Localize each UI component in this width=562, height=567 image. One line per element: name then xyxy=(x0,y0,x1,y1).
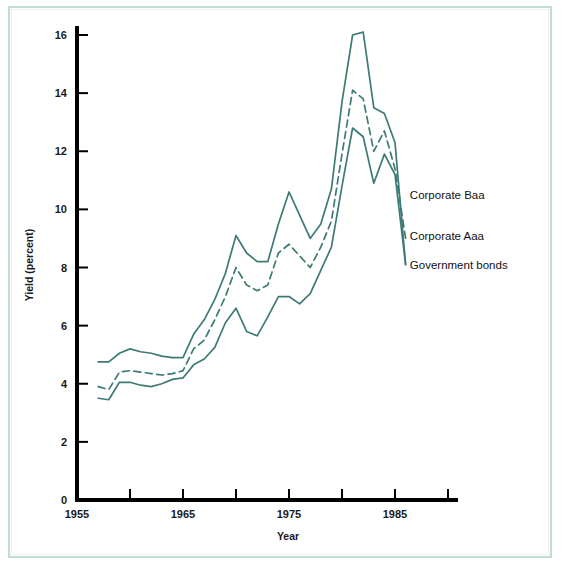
y-axis-tick-label: 4 xyxy=(61,378,68,390)
x-axis-tick-label: 1965 xyxy=(171,508,195,520)
y-axis-tick-label: 10 xyxy=(55,203,67,215)
x-axis-title: Year xyxy=(277,530,299,542)
x-axis-tick-labels: 1955196519751985 xyxy=(65,508,407,520)
y-axis-tick-label: 0 xyxy=(61,494,67,506)
series-label-government-bonds: Government bonds xyxy=(410,259,508,271)
series-line-corporate-aaa xyxy=(98,90,405,389)
x-axis-tick-label: 1985 xyxy=(383,508,407,520)
y-axis-tick-labels: 0246810121416 xyxy=(55,29,68,506)
x-axis-tick-label: 1955 xyxy=(65,508,89,520)
bond-yield-line-chart: 0246810121416 1955196519751985 Corporate… xyxy=(0,0,562,567)
y-axis-tick-label: 14 xyxy=(55,87,68,99)
series-end-labels: Corporate BaaCorporate AaaGovernment bon… xyxy=(410,189,508,271)
series-label-corporate-aaa: Corporate Aaa xyxy=(410,230,485,242)
data-series-lines xyxy=(98,32,405,400)
series-label-corporate-baa: Corporate Baa xyxy=(410,189,485,201)
series-line-corporate-baa xyxy=(98,32,405,362)
y-axis-tick-label: 12 xyxy=(55,145,67,157)
chart-figure: 0246810121416 1955196519751985 Corporate… xyxy=(0,0,562,567)
y-axis-tick-label: 16 xyxy=(55,29,67,41)
x-axis-tick-label: 1975 xyxy=(277,508,301,520)
axes xyxy=(77,28,456,500)
axis-ticks xyxy=(77,35,448,498)
y-axis-tick-label: 2 xyxy=(61,436,67,448)
series-line-government-bonds xyxy=(98,128,405,400)
y-axis-tick-label: 6 xyxy=(61,320,67,332)
y-axis-title: Yield (percent) xyxy=(23,229,35,302)
y-axis-tick-label: 8 xyxy=(61,262,67,274)
